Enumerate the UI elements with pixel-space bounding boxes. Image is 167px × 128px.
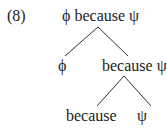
tree-root-node: ϕ because ψ [62, 8, 139, 24]
tree-node-psi: ψ [137, 108, 147, 124]
tree-node-because: because [66, 108, 117, 124]
tree-node-phi: ϕ [58, 58, 66, 74]
tree-node-because-psi: because ψ [102, 58, 167, 74]
example-number: (8) [7, 8, 26, 24]
